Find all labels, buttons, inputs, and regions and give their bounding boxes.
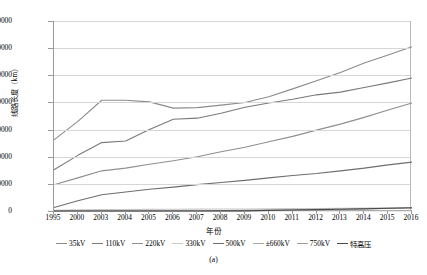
legend-item-330kV[interactable]: 330kV (172, 239, 205, 248)
x-axis-tick (268, 211, 269, 214)
x-axis-tick (363, 211, 364, 214)
legend-label: 特高压 (350, 238, 371, 249)
y-axis-tick-label: 200000 (0, 153, 12, 161)
x-axis-tick (172, 211, 173, 214)
legend-swatch-icon (56, 243, 67, 244)
x-axis-tick (387, 211, 388, 214)
legend-label: ±660kV (266, 239, 290, 248)
x-axis-tick (77, 211, 78, 214)
legend-swatch-icon (253, 243, 264, 244)
x-axis-tick (220, 211, 221, 214)
chart-figure: 线路长度（km） 0100000200000300000400000500000… (0, 0, 427, 275)
legend-label: 750kV (310, 239, 330, 248)
gridline (54, 21, 410, 22)
plot-area (53, 21, 411, 211)
legend-label: 110kV (105, 239, 125, 248)
figure-caption: (a) (0, 255, 427, 264)
legend-item-500kV[interactable]: 500kV (213, 239, 246, 248)
series-lines (54, 21, 412, 211)
legend-item-220kV[interactable]: 220kV (132, 239, 165, 248)
series-line-220kV (54, 103, 412, 185)
x-axis-tick (196, 211, 197, 214)
x-axis-tick (148, 211, 149, 214)
x-axis-tick (411, 211, 412, 214)
legend-label: 220kV (145, 239, 165, 248)
x-axis-tick (316, 211, 317, 214)
legend-item-750kV[interactable]: 750kV (297, 239, 330, 248)
legend-label: 330kV (185, 239, 205, 248)
y-axis-tick-label: 700000 (0, 17, 12, 25)
x-axis-title: 年份 (0, 225, 427, 236)
y-axis-tick-label: 500000 (0, 71, 12, 79)
gridline (54, 130, 410, 131)
legend-label: 35kV (69, 239, 85, 248)
gridline (54, 184, 410, 185)
legend-swatch-icon (337, 243, 348, 244)
y-axis-tick-label: 0 (0, 207, 12, 215)
x-axis-tick (292, 211, 293, 214)
legend-swatch-icon (213, 243, 224, 244)
legend-label: 500kV (226, 239, 246, 248)
x-axis-tick (125, 211, 126, 214)
x-axis-tick (339, 211, 340, 214)
x-axis-tick (53, 211, 54, 214)
legend-item-35kV[interactable]: 35kV (56, 239, 85, 248)
legend-swatch-icon (172, 243, 183, 244)
y-axis-tick-label: 600000 (0, 44, 12, 52)
legend-swatch-icon (297, 243, 308, 244)
gridline (54, 75, 410, 76)
legend-swatch-icon (92, 243, 103, 244)
x-axis-tick (101, 211, 102, 214)
y-axis-tick-label: 100000 (0, 180, 12, 188)
y-axis-title: 线路长度（km） (9, 46, 19, 136)
chart-legend: 35kV110kV220kV330kV500kV±660kV750kV特高压 (0, 238, 427, 249)
gridline (54, 48, 410, 49)
legend-item-特高压[interactable]: 特高压 (337, 238, 371, 249)
y-axis-tick-label: 300000 (0, 126, 12, 134)
legend-item-110kV[interactable]: 110kV (92, 239, 125, 248)
x-axis-tick-label: 2016 (396, 213, 426, 222)
series-line-35kV (54, 47, 412, 140)
legend-swatch-icon (132, 243, 143, 244)
y-axis-tick-label: 400000 (0, 98, 12, 106)
gridline (54, 102, 410, 103)
x-axis-tick (244, 211, 245, 214)
legend-item-±660kV[interactable]: ±660kV (253, 239, 290, 248)
gridline (54, 157, 410, 158)
